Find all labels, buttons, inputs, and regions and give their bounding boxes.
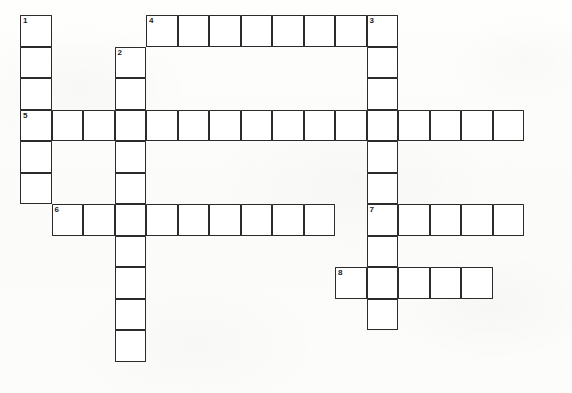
grid-cell[interactable] — [493, 110, 525, 142]
grid-cell[interactable] — [146, 110, 178, 142]
grid-cell-numbered-3[interactable]: 3 — [367, 15, 399, 47]
clue-number-6: 6 — [55, 205, 59, 215]
grid-cell-numbered-2[interactable]: 2 — [115, 47, 147, 79]
clue-number-4: 4 — [149, 16, 153, 26]
clue-number-1: 1 — [23, 16, 27, 26]
grid-cell[interactable] — [367, 267, 399, 299]
grid-cell[interactable] — [115, 330, 147, 362]
grid-cell[interactable] — [430, 110, 462, 142]
grid-cell[interactable] — [398, 204, 430, 236]
grid-cell-numbered-6[interactable]: 6 — [52, 204, 84, 236]
grid-cell[interactable] — [367, 173, 399, 205]
clue-number-8: 8 — [338, 268, 342, 278]
grid-cell[interactable] — [272, 204, 304, 236]
crossword-grid[interactable]: 14325678 — [0, 0, 572, 393]
grid-cell[interactable] — [241, 110, 273, 142]
grid-cell[interactable] — [335, 110, 367, 142]
grid-cell-numbered-7[interactable]: 7 — [367, 204, 399, 236]
grid-cell[interactable] — [367, 47, 399, 79]
grid-cell[interactable] — [115, 78, 147, 110]
grid-cell[interactable] — [461, 110, 493, 142]
grid-cell[interactable] — [398, 267, 430, 299]
grid-cell[interactable] — [461, 267, 493, 299]
grid-cell[interactable] — [272, 110, 304, 142]
grid-cell[interactable] — [304, 204, 336, 236]
grid-cell[interactable] — [398, 110, 430, 142]
grid-cell[interactable] — [115, 236, 147, 268]
grid-cell[interactable] — [178, 204, 210, 236]
grid-cell[interactable] — [178, 110, 210, 142]
grid-cell[interactable] — [209, 110, 241, 142]
grid-cell[interactable] — [461, 204, 493, 236]
grid-cell[interactable] — [20, 173, 52, 205]
grid-cell[interactable] — [367, 236, 399, 268]
grid-cell[interactable] — [209, 204, 241, 236]
grid-cell[interactable] — [115, 267, 147, 299]
grid-cell[interactable] — [52, 110, 84, 142]
grid-cell[interactable] — [430, 267, 462, 299]
grid-cell[interactable] — [493, 204, 525, 236]
grid-cell[interactable] — [335, 15, 367, 47]
clue-number-5: 5 — [23, 111, 27, 121]
grid-cell[interactable] — [115, 110, 147, 142]
grid-cell[interactable] — [115, 204, 147, 236]
grid-cell[interactable] — [115, 299, 147, 331]
grid-cell[interactable] — [115, 173, 147, 205]
grid-cell[interactable] — [178, 15, 210, 47]
grid-cell[interactable] — [20, 78, 52, 110]
clue-number-7: 7 — [370, 205, 374, 215]
grid-cell-numbered-8[interactable]: 8 — [335, 267, 367, 299]
crossword-puzzle: 14325678 — [0, 0, 572, 393]
grid-cell[interactable] — [83, 204, 115, 236]
grid-cell-numbered-5[interactable]: 5 — [20, 110, 52, 142]
grid-cell[interactable] — [20, 47, 52, 79]
grid-cell[interactable] — [20, 141, 52, 173]
grid-cell[interactable] — [83, 110, 115, 142]
grid-cell-numbered-1[interactable]: 1 — [20, 15, 52, 47]
grid-cell[interactable] — [146, 204, 178, 236]
grid-cell[interactable] — [367, 141, 399, 173]
grid-cell[interactable] — [241, 204, 273, 236]
grid-cell[interactable] — [304, 110, 336, 142]
grid-cell[interactable] — [209, 15, 241, 47]
grid-cell[interactable] — [430, 204, 462, 236]
clue-number-3: 3 — [370, 16, 374, 26]
clue-number-2: 2 — [118, 48, 122, 58]
grid-cell[interactable] — [115, 141, 147, 173]
grid-cell[interactable] — [272, 15, 304, 47]
grid-cell[interactable] — [241, 15, 273, 47]
grid-cell[interactable] — [367, 110, 399, 142]
grid-cell[interactable] — [304, 15, 336, 47]
grid-cell[interactable] — [367, 78, 399, 110]
grid-cell[interactable] — [367, 299, 399, 331]
grid-cell-numbered-4[interactable]: 4 — [146, 15, 178, 47]
